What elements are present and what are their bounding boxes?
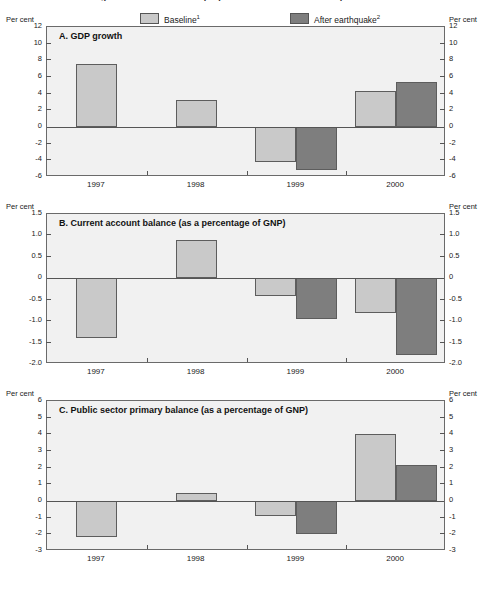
y-tick-label-right: -1.5 xyxy=(449,338,462,346)
legend-footnote-baseline: 1 xyxy=(197,14,200,20)
y-tick-label-left: -2 xyxy=(0,139,42,147)
bar-b-2000-baseline xyxy=(355,278,396,312)
y-tick-mark-right xyxy=(440,234,445,235)
y-tick-label-left: 3 xyxy=(0,446,42,454)
x-axis-label-1999: 1999 xyxy=(246,180,346,189)
y-tick-label-left: 0.5 xyxy=(0,252,42,260)
panel-title-a: A. GDP growth xyxy=(59,31,122,41)
y-tick-label-right: 12 xyxy=(449,22,457,30)
bar-b-1999-baseline xyxy=(255,278,296,296)
y-tick-label-left: 1.0 xyxy=(0,230,42,238)
bar-a-2000-baseline xyxy=(355,91,396,127)
y-tick-mark-left xyxy=(46,109,51,110)
y-tick-mark-left xyxy=(46,433,51,434)
y-tick-mark-left xyxy=(46,467,51,468)
y-tick-label-right: 0 xyxy=(449,122,453,130)
y-tick-mark-right xyxy=(440,417,445,418)
y-tick-label-left: 6 xyxy=(0,396,42,404)
y-tick-mark-right xyxy=(440,533,445,534)
y-tick-label-left: -3 xyxy=(0,546,42,554)
x-axis-label-2000: 2000 xyxy=(345,554,445,563)
y-tick-label-left: 10 xyxy=(0,39,42,47)
y-tick-label-right: -2 xyxy=(449,139,456,147)
bar-c-2000-after-earthquake xyxy=(396,465,437,501)
legend-label-baseline: Baseline1 xyxy=(164,13,200,25)
y-tick-label-left: 6 xyxy=(0,72,42,80)
y-tick-label-right: 0 xyxy=(449,273,453,281)
y-tick-label-right: 6 xyxy=(449,396,453,404)
legend-item-after-earthquake: After earthquake2 xyxy=(290,13,380,25)
bar-a-1999-after-earthquake xyxy=(296,127,337,170)
y-tick-label-left: 2 xyxy=(0,463,42,471)
y-tick-label-left: -2 xyxy=(0,529,42,537)
y-tick-label-right: 5 xyxy=(449,413,453,421)
x-axis-separator xyxy=(247,545,248,549)
y-tick-label-right: -2.0 xyxy=(449,359,462,367)
y-tick-label-right: -2 xyxy=(449,529,456,537)
y-tick-label-left: -0.5 xyxy=(0,295,42,303)
y-tick-label-right: 8 xyxy=(449,55,453,63)
bar-b-1998-baseline xyxy=(176,240,217,279)
x-axis-separator xyxy=(147,545,148,549)
y-tick-label-left: 0 xyxy=(0,496,42,504)
bar-b-1997-baseline xyxy=(76,278,117,338)
x-axis-label-1997: 1997 xyxy=(46,554,146,563)
panel-title-b: B. Current account balance (as a percent… xyxy=(59,218,286,228)
bar-c-1998-baseline xyxy=(176,493,217,501)
y-tick-label-right: -6 xyxy=(449,172,456,180)
x-axis-separator xyxy=(346,358,347,362)
y-tick-mark-right xyxy=(440,59,445,60)
y-tick-label-left: 5 xyxy=(0,413,42,421)
y-tick-label-right: 1.0 xyxy=(449,230,459,238)
y-tick-label-left: -2.0 xyxy=(0,359,42,367)
x-axis-separator xyxy=(247,171,248,175)
y-tick-mark-right xyxy=(440,93,445,94)
bar-b-2000-after-earthquake xyxy=(396,278,437,355)
panel-title-c: C. Public sector primary balance (as a p… xyxy=(59,405,308,415)
chart-legend: Baseline1 After earthquake2 xyxy=(0,13,489,26)
y-tick-mark-right xyxy=(440,109,445,110)
y-tick-mark-left xyxy=(46,299,51,300)
y-tick-mark-left xyxy=(46,43,51,44)
y-tick-label-right: 0 xyxy=(449,496,453,504)
y-tick-mark-right xyxy=(440,43,445,44)
y-tick-label-right: -1 xyxy=(449,513,456,521)
y-tick-mark-right xyxy=(440,433,445,434)
y-tick-label-left: -1.0 xyxy=(0,316,42,324)
bar-c-1997-baseline xyxy=(76,501,117,537)
y-tick-label-left: 12 xyxy=(0,22,42,30)
y-tick-mark-right xyxy=(440,76,445,77)
y-tick-mark-left xyxy=(46,76,51,77)
y-tick-label-right: 2 xyxy=(449,105,453,113)
y-tick-mark-left xyxy=(46,143,51,144)
y-tick-mark-left xyxy=(46,450,51,451)
y-tick-mark-left xyxy=(46,59,51,60)
y-tick-label-left: 0 xyxy=(0,122,42,130)
figure-root: Figure 1. Macroeconomic projections: bas… xyxy=(0,0,489,597)
x-axis-separator xyxy=(247,358,248,362)
y-tick-label-left: 4 xyxy=(0,89,42,97)
bar-c-2000-baseline xyxy=(355,434,396,502)
y-tick-mark-right xyxy=(440,450,445,451)
x-axis-separator xyxy=(346,545,347,549)
y-tick-mark-left xyxy=(46,342,51,343)
y-tick-label-left: 4 xyxy=(0,429,42,437)
y-tick-label-left: 1 xyxy=(0,479,42,487)
zero-line xyxy=(47,127,444,128)
chart-panel-a: Per centPer centA. GDP growth12121010886… xyxy=(0,26,489,191)
y-tick-label-right: 1.5 xyxy=(449,209,459,217)
baseline-swatch-icon xyxy=(140,13,159,24)
y-tick-label-left: 8 xyxy=(0,55,42,63)
y-tick-label-right: 4 xyxy=(449,89,453,97)
y-tick-mark-left xyxy=(46,483,51,484)
y-tick-label-left: -1 xyxy=(0,513,42,521)
y-tick-mark-right xyxy=(440,256,445,257)
percent-label-right: Per cent xyxy=(449,389,477,398)
y-tick-mark-left xyxy=(46,234,51,235)
y-tick-label-right: -0.5 xyxy=(449,295,462,303)
y-tick-label-left: 0 xyxy=(0,273,42,281)
legend-item-baseline: Baseline1 xyxy=(140,13,200,25)
y-tick-label-left: -4 xyxy=(0,155,42,163)
plot-area-c: C. Public sector primary balance (as a p… xyxy=(46,400,445,550)
y-tick-label-left: -6 xyxy=(0,172,42,180)
